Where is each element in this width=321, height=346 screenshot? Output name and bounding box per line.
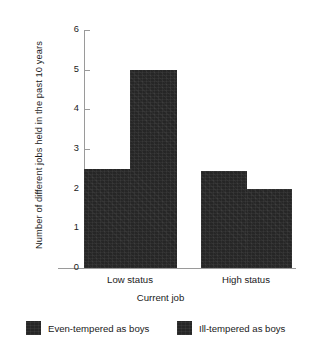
bar-low-status-even-tempered (84, 169, 130, 268)
legend-entry-ill-tempered: Ill-tempered as boys (177, 320, 285, 336)
chart-legend: Even-tempered as boys Ill-tempered as bo… (0, 320, 321, 340)
y-tick-mark-0 (85, 268, 90, 269)
x-axis-line (58, 268, 296, 269)
y-tick-mark-4 (85, 109, 90, 110)
y-tick-label-1: 1 (58, 223, 79, 232)
plot-area: 6 5 4 3 2 1 0 Low status High status (58, 26, 296, 272)
y-tick-label-6: 6 (58, 25, 79, 34)
x-axis-title: Current job (0, 292, 321, 303)
y-tick-label-2: 2 (58, 184, 79, 193)
y-tick-label-0: 0 (58, 263, 79, 272)
legend-label-ill-tempered: Ill-tempered as boys (199, 323, 285, 334)
y-tick-mark-6 (85, 30, 90, 31)
y-tick-mark-3 (85, 149, 90, 150)
legend-swatch-icon-even-tempered (26, 321, 41, 335)
y-tick-label-4: 4 (58, 104, 79, 113)
y-axis-title: Number of different jobs held in the pas… (34, 20, 44, 270)
bar-high-status-even-tempered (201, 171, 247, 268)
y-tick-label-3: 3 (58, 144, 79, 153)
bar-chart-figure: Number of different jobs held in the pas… (0, 0, 321, 346)
x-tick-label-low-status: Low status (80, 274, 180, 285)
legend-swatch-icon-ill-tempered (177, 321, 192, 335)
bar-low-status-ill-tempered (130, 70, 177, 268)
bar-high-status-ill-tempered (247, 189, 292, 268)
legend-label-even-tempered: Even-tempered as boys (48, 323, 149, 334)
y-tick-label-5: 5 (58, 65, 79, 74)
legend-entry-even-tempered: Even-tempered as boys (26, 320, 149, 336)
x-tick-label-high-status: High status (196, 274, 296, 285)
y-tick-mark-5 (85, 70, 90, 71)
